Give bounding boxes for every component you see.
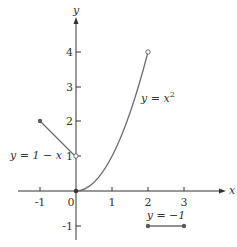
series-label-linear: y = 1 − x [9, 149, 63, 162]
x-tick-label: 2 [145, 196, 152, 209]
x-ticks [40, 187, 184, 191]
piecewise-function-graph: -1 0 1 2 3 -1 1 2 3 4 x y y = 1 − x y = … [0, 0, 237, 247]
y-axis-label: y [72, 4, 80, 17]
x-axis-label: x [229, 184, 236, 197]
y-ticks [76, 52, 81, 226]
series-constant: y = −1 [146, 209, 187, 228]
series-label-constant: y = −1 [146, 209, 186, 222]
y-axis-arrow-icon [74, 17, 79, 24]
open-endpoint [146, 50, 150, 54]
y-tick-label: 4 [66, 46, 73, 59]
x-tick-label: -1 [35, 196, 46, 209]
closed-endpoint [74, 189, 78, 193]
y-tick-label: 3 [66, 81, 73, 94]
x-axis-arrow-icon [219, 189, 226, 194]
closed-endpoint [146, 224, 150, 228]
origin-label: 0 [68, 196, 75, 209]
x-tick-label: 1 [109, 196, 116, 209]
x-tick-labels: -1 0 1 2 3 [35, 196, 188, 209]
closed-endpoint [38, 119, 42, 123]
y-tick-label: -1 [62, 220, 73, 233]
y-tick-label: 1 [66, 150, 73, 163]
y-tick-label: 2 [66, 115, 73, 128]
x-tick-label: 3 [181, 196, 188, 209]
closed-endpoint [182, 224, 186, 228]
series-quadratic: y = x2 [74, 50, 175, 193]
series-label-quadratic: y = x2 [140, 90, 175, 105]
open-endpoint [74, 154, 78, 158]
axes [18, 17, 226, 240]
